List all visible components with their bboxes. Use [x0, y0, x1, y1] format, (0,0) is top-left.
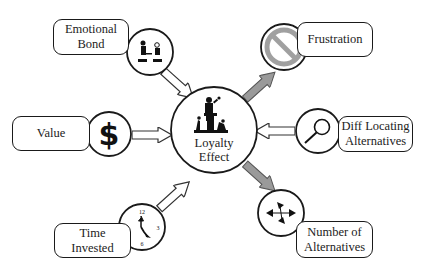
- frustration-box: Frustration: [297, 22, 373, 57]
- dollar-sign-icon: $: [99, 117, 120, 152]
- diff-locating-label-line2: Alternatives: [341, 134, 409, 149]
- svg-text:3: 3: [157, 225, 160, 231]
- center-label-line2: Effect: [199, 150, 230, 164]
- emotional-bond-label-line1: Emotional: [65, 22, 117, 37]
- diff-locating-node: [296, 109, 340, 153]
- number-of-alternatives-label-line2: Alternatives: [304, 240, 365, 255]
- emotional-bond-node: [127, 29, 173, 75]
- frustration-label: Frustration: [308, 32, 363, 47]
- svg-text:6: 6: [141, 241, 144, 247]
- emotional-bond-box: Emotional Bond: [53, 19, 129, 55]
- center-node: Loyalty Effect: [171, 87, 257, 173]
- value-label: Value: [37, 126, 65, 141]
- svg-text:12: 12: [139, 209, 145, 215]
- value-box: Value: [12, 116, 90, 151]
- arrow-time-invested-to-center: [154, 176, 194, 215]
- value-node: $: [87, 112, 131, 156]
- time-invested-label-line1: Time: [71, 226, 113, 241]
- diff-locating-label-line1: Diff Locating: [341, 119, 409, 134]
- arrow-diff-locating-to-center: [255, 123, 295, 139]
- number-of-alternatives-box: Number of Alternatives: [296, 221, 373, 258]
- center-label-line1: Loyalty: [195, 136, 235, 150]
- time-invested-box: Time Invested: [54, 223, 131, 258]
- diff-locating-box: Diff Locating Alternatives: [338, 116, 413, 152]
- arrow-center-to-frustration: [240, 66, 280, 105]
- time-invested-label-line2: Invested: [71, 241, 113, 256]
- emotional-bond-label-line2: Bond: [65, 37, 117, 52]
- arrow-value-to-center: [132, 127, 172, 143]
- number-of-alternatives-label-line1: Number of: [304, 225, 365, 240]
